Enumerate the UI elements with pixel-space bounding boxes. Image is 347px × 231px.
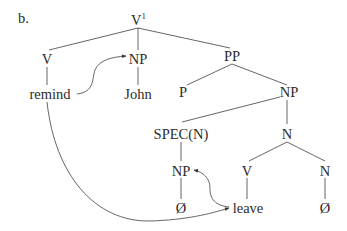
node-root: V1 (131, 11, 146, 28)
edge-np-spec (182, 97, 280, 122)
node-pp: PP (224, 48, 240, 64)
node-v-leave: V (242, 163, 253, 179)
node-v: V (42, 51, 53, 67)
edge-nbar-n (287, 142, 325, 161)
node-n-head: N (320, 163, 331, 179)
node-np-spec: NP (172, 163, 191, 179)
node-n-bar: N (282, 126, 293, 142)
edge-pp-np (232, 64, 287, 85)
node-np-object: NP (129, 51, 148, 67)
node-p: P (179, 84, 187, 100)
figure-label: b. (18, 10, 29, 26)
node-leave: leave (233, 200, 264, 216)
edge-root-v (49, 28, 138, 50)
tree-nodes: V1 V remind NP John PP P NP SPEC(N) NP Ø… (29, 11, 330, 216)
edge-root-pp (138, 28, 230, 48)
node-spec-n: SPEC(N) (154, 126, 209, 143)
node-remind: remind (29, 86, 71, 102)
node-empty-n: Ø (320, 200, 330, 216)
node-np-pp: NP (280, 84, 299, 100)
syntax-tree-diagram: b. V1 V remind NP John PP P NP SPEC (0, 0, 347, 231)
arrow-leave-to-np (194, 170, 229, 207)
node-john: John (124, 86, 152, 102)
edge-nbar-v (249, 142, 287, 161)
arrow-remind-to-leave (47, 102, 229, 221)
arrow-remind-to-np (77, 56, 126, 94)
edge-pp-p (187, 64, 232, 85)
node-empty-spec: Ø (176, 200, 186, 216)
